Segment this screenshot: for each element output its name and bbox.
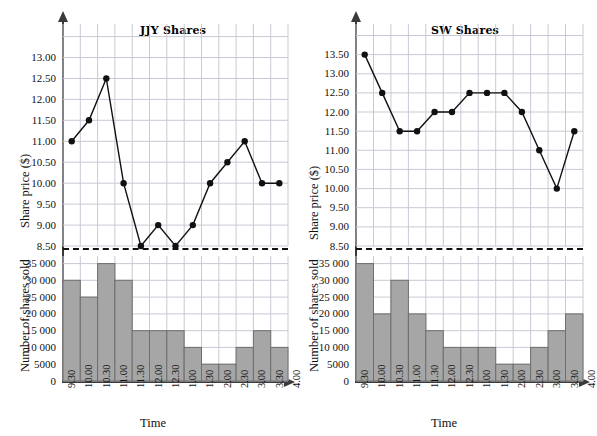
- x-tick-label: 12.00: [154, 364, 165, 388]
- price-line: [365, 55, 575, 189]
- price-tick-label: 11.00: [0, 136, 60, 147]
- x-axis-label-sw: Time: [431, 416, 457, 431]
- x-axis-label-jjy: Time: [140, 416, 166, 431]
- x-tick-label: 3.00: [257, 370, 268, 388]
- volume-tick-label: 35 000: [298, 258, 353, 269]
- x-tick-label: 3.00: [552, 370, 563, 388]
- x-tick-label: 2.00: [517, 370, 528, 388]
- volume-tick-label: 10 000: [0, 342, 60, 353]
- volume-tick-label: 0: [298, 376, 353, 387]
- x-tick-label: 1.30: [500, 370, 511, 388]
- volume-bar: [63, 280, 80, 381]
- price-tick-label: 12.00: [298, 107, 353, 118]
- price-plot-jjy: [63, 24, 288, 246]
- price-tick-label: 9.00: [0, 220, 60, 231]
- volume-bars: [63, 264, 288, 381]
- volume-bar: [356, 264, 374, 381]
- volume-tick-label: 10 000: [298, 342, 353, 353]
- x-tick-label: 10.30: [395, 364, 406, 388]
- price-tick-label: 11.50: [0, 115, 60, 126]
- grid-lines: [63, 24, 288, 246]
- price-tick-label: 10.00: [298, 183, 353, 194]
- price-tick-label: 10.00: [0, 178, 60, 189]
- panel-sw: SW Shares Share price ($) Number of shar…: [298, 0, 596, 436]
- price-tick-label: 9.50: [0, 199, 60, 210]
- x-tick-label: 2.30: [240, 370, 251, 388]
- grid-lines: [356, 24, 583, 246]
- x-tick-label: 9.30: [67, 370, 78, 388]
- price-tick-label: 9.50: [298, 202, 353, 213]
- price-tick-label: 9.00: [298, 221, 353, 232]
- x-tick-label: 3.30: [275, 370, 286, 388]
- x-tick-label: 10.00: [377, 364, 388, 388]
- price-tick-label: 10.50: [0, 157, 60, 168]
- x-tick-label: 9.30: [360, 370, 371, 388]
- x-tick-label: 10.00: [84, 364, 95, 388]
- x-tick-label: 1.00: [188, 370, 199, 388]
- price-plot-sw: [356, 24, 583, 246]
- panel-separator-sw: [356, 248, 583, 250]
- x-tick-label: 12.00: [447, 364, 458, 388]
- x-tick-label: 4.00: [587, 370, 597, 388]
- volume-tick-label: 5000: [298, 359, 353, 370]
- y-axis-arrow-icon-jjy: [58, 11, 68, 22]
- price-tick-label: 11.00: [298, 145, 353, 156]
- volume-tick-label: 5000: [0, 359, 60, 370]
- volume-tick-label: 25 000: [0, 292, 60, 303]
- volume-tick-label: 20 000: [0, 308, 60, 319]
- price-tick-label: 12.50: [298, 87, 353, 98]
- x-tick-label: 1.00: [482, 370, 493, 388]
- volume-tick-label: 30 000: [0, 275, 60, 286]
- price-tick-label: 8.50: [0, 241, 60, 252]
- x-tick-label: 2.00: [223, 370, 234, 388]
- panel-jjy: JJY Shares Share price ($) Number of sha…: [0, 0, 298, 436]
- x-tick-label: 11.00: [412, 365, 423, 388]
- price-markers: [362, 51, 578, 191]
- volume-plot-jjy: [63, 256, 288, 381]
- x-tick-label: 12.30: [171, 364, 182, 388]
- price-tick-label: 10.50: [298, 164, 353, 175]
- volume-bar: [98, 264, 115, 381]
- volume-plot-sw: [356, 256, 583, 381]
- price-tick-label: 12.00: [0, 94, 60, 105]
- volume-bars: [356, 264, 583, 381]
- x-tick-label: 11.30: [430, 365, 441, 388]
- price-tick-label: 8.50: [298, 241, 353, 252]
- two-panel-share-figure: JJY Shares Share price ($) Number of sha…: [0, 0, 597, 436]
- volume-tick-label: 0: [0, 376, 60, 387]
- x-tick-label: 11.00: [119, 365, 130, 388]
- x-tick-label: 11.30: [136, 365, 147, 388]
- y-axis-arrow-icon-sw: [351, 11, 361, 22]
- x-tick-label: 10.30: [102, 364, 113, 388]
- price-tick-label: 13.50: [298, 49, 353, 60]
- volume-tick-label: 15 000: [298, 325, 353, 336]
- x-tick-label: 1.30: [205, 370, 216, 388]
- price-tick-label: 13.00: [298, 68, 353, 79]
- x-tick-label: 2.30: [535, 370, 546, 388]
- volume-tick-label: 20 000: [298, 308, 353, 319]
- price-tick-label: 12.50: [0, 73, 60, 84]
- volume-tick-label: 30 000: [298, 275, 353, 286]
- volume-tick-label: 35 000: [0, 258, 60, 269]
- x-tick-label: 3.30: [570, 370, 581, 388]
- price-tick-label: 13.00: [0, 52, 60, 63]
- volume-tick-label: 15 000: [0, 325, 60, 336]
- volume-tick-label: 25 000: [298, 292, 353, 303]
- price-tick-label: 11.50: [298, 126, 353, 137]
- x-tick-label: 12.30: [465, 364, 476, 388]
